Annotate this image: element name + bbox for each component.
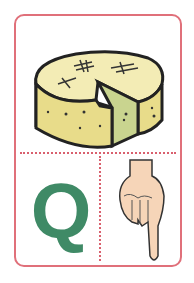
flashcard: Q: [14, 14, 182, 267]
pointing-hand-sign-icon: [108, 156, 178, 266]
letter-q: Q: [26, 161, 96, 261]
vertical-dotted-divider: [99, 156, 101, 261]
horizontal-dotted-divider: [20, 152, 176, 154]
cheese-illustration: [16, 16, 180, 151]
